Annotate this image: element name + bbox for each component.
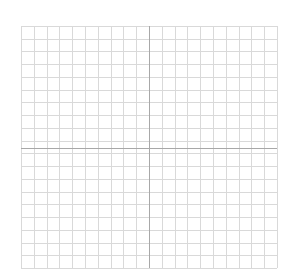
coordinate-grid <box>0 0 290 272</box>
